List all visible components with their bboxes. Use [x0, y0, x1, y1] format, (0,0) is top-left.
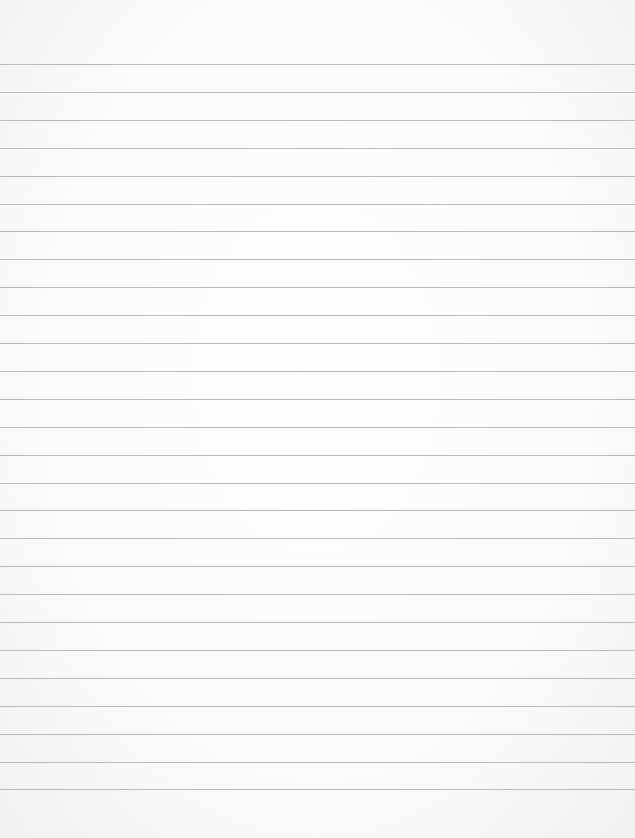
ruled-line — [0, 259, 635, 260]
ruled-line — [0, 287, 635, 288]
ruled-line — [0, 92, 635, 93]
ruled-line — [0, 231, 635, 232]
ruled-line — [0, 176, 635, 177]
ruled-line — [0, 315, 635, 316]
ruled-line — [0, 622, 635, 623]
ruled-line — [0, 483, 635, 484]
ruled-line — [0, 148, 635, 149]
ruled-line — [0, 399, 635, 400]
ruled-line — [0, 204, 635, 205]
ruled-line — [0, 538, 635, 539]
ruled-line — [0, 566, 635, 567]
ruled-line — [0, 594, 635, 595]
ruled-line — [0, 706, 635, 707]
ruled-line — [0, 678, 635, 679]
ruled-line — [0, 789, 635, 790]
ruled-line — [0, 64, 635, 65]
ruled-line — [0, 734, 635, 735]
ruled-line — [0, 343, 635, 344]
ruled-line — [0, 510, 635, 511]
ruled-line — [0, 120, 635, 121]
ruled-line — [0, 371, 635, 372]
lined-paper-sheet — [0, 0, 635, 838]
ruled-line — [0, 427, 635, 428]
ruled-line — [0, 455, 635, 456]
ruled-line — [0, 762, 635, 763]
ruled-line — [0, 650, 635, 651]
